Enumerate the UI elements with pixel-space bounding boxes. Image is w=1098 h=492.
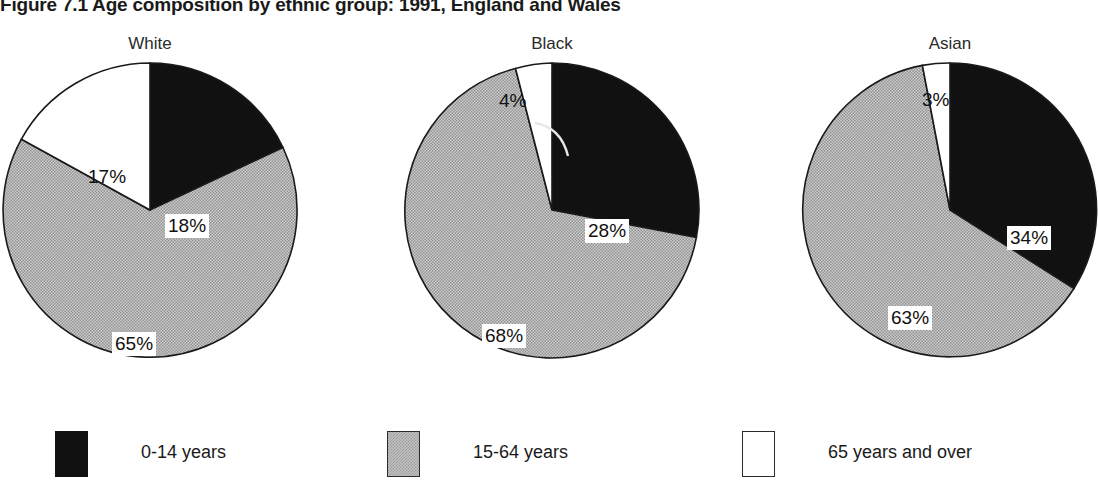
pie-value-white-65-over: 17% <box>88 167 126 186</box>
pie-chart-black: Black 28% 68% 4% <box>402 34 702 394</box>
pie-value-white-15-64: 65% <box>112 332 156 356</box>
pie-chart-asian: Asian 34% 63% 3% <box>800 34 1098 394</box>
pie-value-black-65-over: 4% <box>499 91 526 110</box>
pie-value-asian-65-over: 3% <box>922 90 949 109</box>
pie-svg-white <box>0 60 300 360</box>
gray-swatch-icon <box>387 431 420 477</box>
pie-value-asian-0-14: 34% <box>1007 226 1051 250</box>
legend-label-65-years-and-over: 65 years and over <box>828 442 972 463</box>
pie-slice-black-0-14 <box>552 63 699 237</box>
pie-title-black: Black <box>402 34 702 54</box>
legend-label-15-64-years: 15-64 years <box>473 442 568 463</box>
legend: 0-14 years 15-64 years 65 years and over <box>0 425 1098 485</box>
black-swatch-icon <box>55 431 88 477</box>
pie-title-asian: Asian <box>800 34 1098 54</box>
pie-value-white-0-14: 18% <box>165 214 209 238</box>
legend-label-0-14-years: 0-14 years <box>141 442 226 463</box>
pie-svg-black <box>402 60 702 360</box>
pie-title-white: White <box>0 34 300 54</box>
white-swatch-icon <box>742 431 775 477</box>
pie-value-asian-15-64: 63% <box>888 306 932 330</box>
pie-value-black-15-64: 68% <box>482 324 526 348</box>
pie-chart-white: White 18% 65% 17% <box>0 34 300 394</box>
pie-value-black-0-14: 28% <box>585 219 629 243</box>
figure-title: Figure 7.1 Age composition by ethnic gro… <box>0 0 1090 16</box>
